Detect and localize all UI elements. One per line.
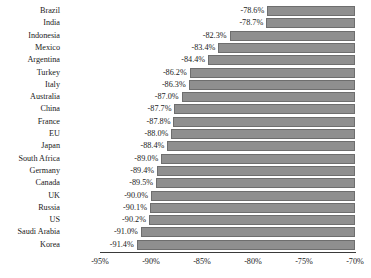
- category-label: South Africa: [0, 154, 60, 164]
- bar-row: Canada-89.5%: [100, 178, 355, 188]
- bar[interactable]: [208, 55, 355, 65]
- bar[interactable]: [230, 31, 355, 41]
- value-label: -89.0%: [134, 154, 158, 164]
- bar-row: Australia-87.0%: [100, 92, 355, 102]
- plot-area: Brazil-78.6%India-78.7%Indonesia-82.3%Me…: [100, 6, 355, 252]
- bar-row: India-78.7%: [100, 18, 355, 28]
- value-label: -90.0%: [124, 191, 148, 201]
- value-label: -87.7%: [148, 104, 172, 114]
- bar-row: Korea-91.4%: [100, 240, 355, 250]
- value-label: -82.3%: [203, 31, 227, 41]
- bar[interactable]: [151, 191, 355, 201]
- bar[interactable]: [182, 92, 355, 102]
- category-label: EU: [0, 129, 60, 139]
- bar[interactable]: [141, 227, 355, 237]
- category-label: Australia: [0, 92, 60, 102]
- bar[interactable]: [167, 141, 355, 151]
- value-label: -84.4%: [181, 55, 205, 65]
- value-label: -90.1%: [123, 203, 147, 213]
- value-label: -86.3%: [162, 80, 186, 90]
- bar-row: Saudi Arabia-91.0%: [100, 227, 355, 237]
- bar[interactable]: [218, 43, 355, 53]
- category-label: Argentina: [0, 55, 60, 65]
- category-label: Saudi Arabia: [0, 227, 60, 237]
- value-label: -88.4%: [140, 141, 164, 151]
- bar-row: EU-88.0%: [100, 129, 355, 139]
- bar[interactable]: [189, 80, 355, 90]
- value-label: -86.2%: [163, 68, 187, 78]
- bar[interactable]: [173, 117, 355, 127]
- category-label: Brazil: [0, 6, 60, 16]
- bar[interactable]: [137, 240, 355, 250]
- bar-row: China-87.7%: [100, 104, 355, 114]
- category-label: France: [0, 117, 60, 127]
- value-label: -90.2%: [122, 215, 146, 225]
- bar[interactable]: [174, 104, 355, 114]
- category-label: Japan: [0, 141, 60, 151]
- x-tick-label: -70%: [325, 256, 371, 267]
- value-label: -78.6%: [240, 6, 264, 16]
- value-label: -91.0%: [114, 227, 138, 237]
- value-label: -91.4%: [110, 240, 134, 250]
- category-label: Mexico: [0, 43, 60, 53]
- category-label: UK: [0, 191, 60, 201]
- bar[interactable]: [266, 18, 355, 28]
- bar-row: Italy-86.3%: [100, 80, 355, 90]
- category-label: Indonesia: [0, 31, 60, 41]
- bar[interactable]: [149, 215, 355, 225]
- bar[interactable]: [267, 6, 355, 16]
- value-label: -89.5%: [129, 178, 153, 188]
- bar[interactable]: [171, 129, 355, 139]
- bar-row: Indonesia-82.3%: [100, 31, 355, 41]
- bar[interactable]: [157, 166, 355, 176]
- bar-row: Argentina-84.4%: [100, 55, 355, 65]
- bar-row: France-87.8%: [100, 117, 355, 127]
- bar-row: Turkey-86.2%: [100, 68, 355, 78]
- category-label: India: [0, 18, 60, 28]
- bar-row: Japan-88.4%: [100, 141, 355, 151]
- bar-row: Russia-90.1%: [100, 203, 355, 213]
- bar[interactable]: [190, 68, 355, 78]
- bar-row: UK-90.0%: [100, 191, 355, 201]
- value-label: -89.4%: [130, 166, 154, 176]
- category-label: US: [0, 215, 60, 225]
- value-label: -83.4%: [191, 43, 215, 53]
- bar-row: US-90.2%: [100, 215, 355, 225]
- category-label: Germany: [0, 166, 60, 176]
- category-label: Russia: [0, 203, 60, 213]
- category-label: Turkey: [0, 68, 60, 78]
- bar-row: South Africa-89.0%: [100, 154, 355, 164]
- bar[interactable]: [161, 154, 355, 164]
- bar-row: Mexico-83.4%: [100, 43, 355, 53]
- category-label: China: [0, 104, 60, 114]
- bar[interactable]: [150, 203, 355, 213]
- bar-row: Germany-89.4%: [100, 166, 355, 176]
- x-axis-line: [100, 252, 356, 253]
- value-label: -78.7%: [239, 18, 263, 28]
- value-label: -87.0%: [155, 92, 179, 102]
- bar-row: Brazil-78.6%: [100, 6, 355, 16]
- bar-chart: Brazil-78.6%India-78.7%Indonesia-82.3%Me…: [0, 0, 371, 278]
- category-label: Italy: [0, 80, 60, 90]
- value-label: -88.0%: [145, 129, 169, 139]
- category-label: Korea: [0, 240, 60, 250]
- bar[interactable]: [156, 178, 355, 188]
- category-label: Canada: [0, 178, 60, 188]
- value-label: -87.8%: [147, 117, 171, 127]
